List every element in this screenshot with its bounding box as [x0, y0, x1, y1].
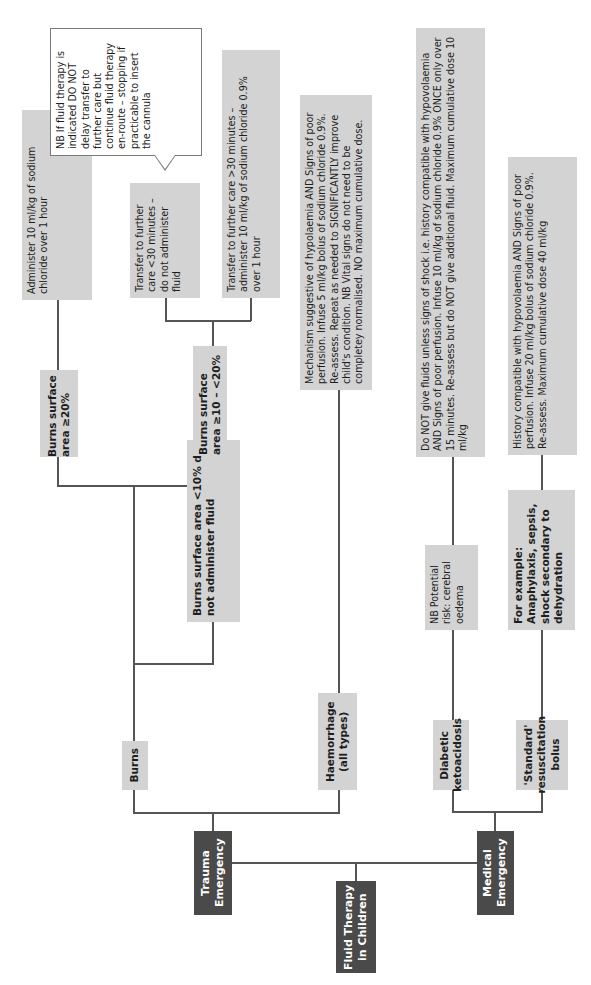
connector: [541, 455, 543, 490]
burns-lt10-text: Burns surface area <10% do not administe…: [191, 446, 218, 616]
connector: [165, 298, 167, 321]
transfer-gt30-node: Transfer to further care >30 minutes – a…: [222, 50, 280, 298]
connector: [338, 390, 340, 693]
connector: [355, 863, 357, 881]
connector: [133, 790, 135, 813]
standard-bolus-node: 'Standard' resuscitation bolus: [516, 720, 568, 790]
connector: [57, 457, 59, 486]
burns-node: Burns: [122, 741, 148, 790]
haemorrhage-action-text: Mechanism suggestive of hypolaemia AND S…: [304, 101, 365, 384]
connector: [494, 812, 496, 831]
transfer-lt30-text: Transfer to further care <30 minutes – d…: [134, 189, 183, 292]
dka-node: Diabetic ketoacidosis: [433, 720, 469, 790]
connector: [212, 813, 214, 831]
callout-pointer-fill: [155, 155, 175, 169]
connector: [57, 300, 59, 370]
nb-transfer-text: NB If fluid therapy is indicated DO NOT …: [55, 35, 153, 149]
transfer-gt30-text: Transfer to further care >30 minutes – a…: [226, 56, 263, 292]
connector: [452, 811, 543, 813]
connector: [452, 630, 454, 720]
connector: [212, 622, 214, 664]
connector: [452, 790, 454, 812]
medical-title: Medical Emergency: [481, 831, 509, 915]
standard-action: History compatible with hypovolaemia AND…: [508, 157, 577, 455]
dka-action: Do NOT give fluids unless signs of shock…: [416, 28, 485, 457]
dka-note: NB Potential risk: cerebral oedema: [425, 545, 478, 630]
standard-examples-text: For example: Anaphylaxis, sepsis, shock …: [512, 496, 566, 624]
connector: [232, 862, 477, 864]
burns-ge10-lt20-node: Burns surface area ≥10 – <20%: [193, 346, 227, 455]
burns-ge20-title: Burns surface area ≥20%: [46, 370, 73, 457]
burns-lt10-node: Burns surface area <10% do not administe…: [187, 440, 240, 622]
trauma-title: Trauma Emergency: [199, 831, 227, 915]
root-title: Fluid Therapy in Children: [342, 881, 370, 973]
transfer-lt30-node: Transfer to further care <30 minutes – d…: [130, 183, 200, 298]
standard-examples: For example: Anaphylaxis, sepsis, shock …: [508, 490, 575, 630]
burns-ge20-node: Burns surface area ≥20%: [40, 370, 78, 457]
root-node: Fluid Therapy in Children: [336, 881, 376, 973]
connector: [541, 630, 543, 720]
burns-title: Burns: [128, 748, 141, 782]
dka-note-text: NB Potential risk: cerebral oedema: [429, 551, 466, 624]
connector: [452, 457, 454, 545]
standard-action-text: History compatible with hypovolaemia AND…: [512, 163, 549, 449]
medical-emergency-node: Medical Emergency: [477, 831, 514, 915]
connector: [165, 320, 251, 322]
dka-action-text: Do NOT give fluids unless signs of shock…: [420, 34, 469, 451]
burns-ge10-lt20-title: Burns surface area ≥10 – <20%: [197, 346, 224, 455]
haemorrhage-title: Haemorrhage (all types): [324, 693, 351, 790]
connector: [133, 812, 340, 814]
haemorrhage-action: Mechanism suggestive of hypolaemia AND S…: [300, 95, 372, 390]
connector: [338, 790, 340, 813]
connector: [133, 663, 214, 665]
connector: [212, 321, 214, 346]
trauma-emergency-node: Trauma Emergency: [194, 831, 232, 915]
nb-transfer-callout: NB If fluid therapy is indicated DO NOT …: [50, 28, 202, 156]
connector: [133, 486, 135, 741]
haemorrhage-node: Haemorrhage (all types): [318, 693, 357, 790]
standard-bolus-title: 'Standard' resuscitation bolus: [522, 716, 562, 794]
burns-ge20-action-text: Administer 10 ml/kg of sodium chloride o…: [26, 116, 51, 294]
dka-title: Diabetic ketoacidosis: [438, 718, 465, 792]
connector: [250, 298, 252, 321]
